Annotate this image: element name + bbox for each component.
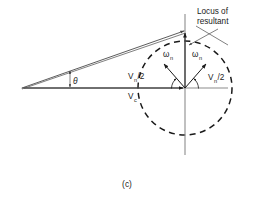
vn-half-left-tail: /2 (138, 72, 145, 81)
figure-container: Locus of resultant θ ω n ω n V n /2 V n … (0, 0, 254, 204)
omega-n-left-main: ω (163, 50, 170, 59)
locus-label-line2: resultant (197, 17, 229, 26)
vc-label-sub: c (134, 97, 137, 103)
omega-n-right-sub: n (199, 55, 202, 61)
vn-half-right-tail: /2 (218, 73, 225, 82)
theta-label: θ (73, 76, 78, 86)
figure-caption: (c) (122, 179, 132, 189)
figure-background (0, 0, 254, 204)
omega-n-left-sub: n (170, 55, 173, 61)
locus-label-line1: Locus of (197, 7, 229, 16)
velocity-locus-diagram: Locus of resultant θ ω n ω n V n /2 V n … (0, 0, 254, 204)
omega-n-right-main: ω (192, 50, 199, 59)
